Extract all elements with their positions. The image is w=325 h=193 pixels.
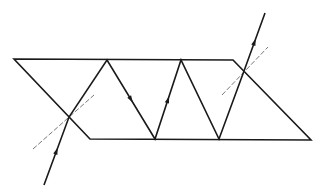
arrow-up-icon (251, 39, 255, 46)
arrow-down-icon (127, 95, 133, 102)
parallelogram-prism (14, 59, 311, 140)
normal-lines (33, 47, 268, 149)
arrow-up-icon (165, 96, 169, 103)
entry-normal (33, 95, 94, 149)
prism-diagram (0, 0, 325, 193)
arrow-up-icon (53, 148, 57, 155)
light-ray-path (44, 13, 265, 185)
diagram-canvas: Light ray undergoing total internal refl… (0, 0, 325, 193)
